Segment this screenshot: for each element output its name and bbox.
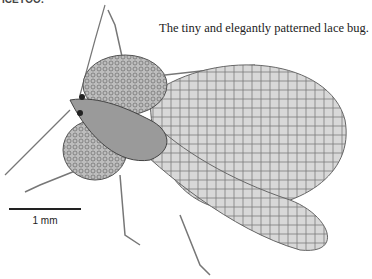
scale-bar: 1 mm <box>9 208 81 226</box>
lace-bug-illustration <box>0 0 372 279</box>
scale-bar-line <box>9 208 81 210</box>
scale-bar-label: 1 mm <box>9 215 81 226</box>
